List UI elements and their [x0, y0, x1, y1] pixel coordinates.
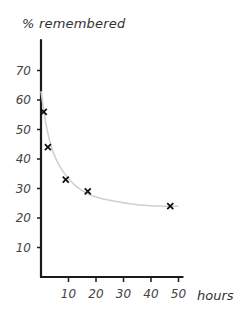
- axes: 102030405060701020304050: [16, 40, 187, 301]
- y-tick-label: 30: [16, 182, 32, 196]
- trend-curve: [41, 91, 179, 206]
- y-tick-label: 10: [16, 241, 32, 255]
- x-tick-label: 30: [116, 287, 132, 301]
- x-tick-label: 10: [61, 287, 77, 301]
- forgetting-curve-chart: 102030405060701020304050: [0, 0, 247, 318]
- y-tick-label: 20: [16, 211, 32, 225]
- x-tick-label: 40: [143, 287, 159, 301]
- x-marker: [63, 177, 69, 183]
- x-tick-label: 50: [171, 287, 187, 301]
- curve-path: [41, 91, 179, 206]
- x-marker: [45, 144, 51, 150]
- y-tick-label: 60: [16, 93, 32, 107]
- y-tick-label: 50: [16, 123, 32, 137]
- x-tick-label: 20: [88, 287, 104, 301]
- data-points: [41, 109, 174, 209]
- y-tick-label: 40: [16, 152, 32, 166]
- y-tick-label: 70: [16, 64, 32, 78]
